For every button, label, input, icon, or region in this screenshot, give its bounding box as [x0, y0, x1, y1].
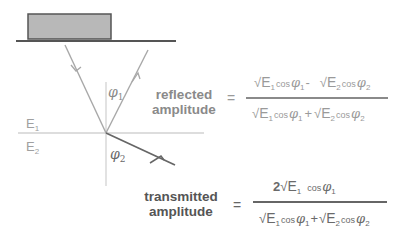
phi-symbol: φ [322, 179, 331, 194]
transmitted-fraction-bar [253, 201, 387, 203]
label-line: transmitted [140, 190, 222, 204]
subscript: 1 [300, 83, 304, 92]
angle-label-phi2: φ2 [110, 146, 126, 164]
angle-symbol: φ [110, 146, 120, 162]
subscript: 1 [305, 219, 309, 228]
medium-index: 2 [35, 147, 39, 156]
cos-fn: cos [307, 183, 321, 193]
transmitted-equals-sign: = [233, 197, 241, 213]
incident-ray [65, 45, 106, 133]
subscript: 2 [366, 83, 370, 92]
subscript: 1 [298, 114, 302, 123]
cos-fn: cos [276, 79, 290, 89]
var-e: E [326, 210, 335, 226]
subscript: 1 [275, 219, 279, 228]
reflected-denominator: √E1cosφ1+√E2cosφ2 [252, 106, 365, 123]
operator: + [305, 106, 313, 121]
reflected-amplitude-label: reflected amplitude [148, 88, 220, 116]
phi-symbol: φ [291, 75, 300, 90]
subscript: 2 [331, 114, 335, 123]
angle-index: 1 [118, 92, 124, 102]
reflected-numerator: √E1cosφ1-√E2cosφ2 [254, 75, 370, 92]
reflection-transmission-diagram: E1 E2 φ1 φ2 reflected amplitude = √E1cos… [0, 0, 404, 243]
medium-label-e1: E1 [26, 116, 39, 133]
label-line: amplitude [148, 103, 220, 117]
phi-symbol: φ [356, 211, 365, 226]
phi-symbol: φ [289, 106, 298, 121]
angle-index: 2 [120, 154, 126, 164]
operator: - [306, 75, 310, 90]
angle-symbol: φ [108, 84, 118, 100]
subscript: 1 [297, 187, 301, 196]
label-line: reflected [148, 88, 220, 102]
angle-label-phi1: φ1 [108, 84, 124, 102]
subscript: 2 [336, 83, 340, 92]
medium-label-e2: E2 [26, 139, 39, 156]
var-e: E [287, 178, 296, 194]
source-block [28, 14, 111, 39]
cos-fn: cos [342, 79, 356, 89]
cos-fn: cos [274, 110, 288, 120]
subscript: 2 [365, 219, 369, 228]
subscript: 1 [270, 83, 274, 92]
cos-fn: cos [341, 215, 355, 225]
transmitted-amplitude-label: transmitted amplitude [140, 190, 222, 218]
cos-fn: cos [281, 215, 295, 225]
medium-symbol: E [26, 139, 35, 154]
medium-symbol: E [26, 116, 35, 131]
phi-symbol: φ [357, 75, 366, 90]
subscript: 1 [268, 114, 272, 123]
var-e: E [321, 105, 330, 121]
transmitted-numerator: 2√E1cosφ1 [273, 179, 336, 196]
subscript: 2 [336, 219, 340, 228]
phi-symbol: φ [351, 106, 360, 121]
var-e: E [327, 74, 336, 90]
medium-index: 1 [35, 124, 39, 133]
sqrt-symbol: √ [320, 75, 327, 90]
operator: + [311, 211, 319, 226]
reflected-equals-sign: = [227, 90, 235, 106]
reflected-fraction-bar [246, 97, 388, 99]
transmitted-denominator: √E1cosφ1+√E2cosφ2 [259, 211, 370, 228]
cos-fn: cos [336, 110, 350, 120]
subscript: 2 [360, 114, 364, 123]
label-line: amplitude [140, 205, 222, 219]
phi-symbol: φ [296, 211, 305, 226]
subscript: 1 [331, 187, 335, 196]
